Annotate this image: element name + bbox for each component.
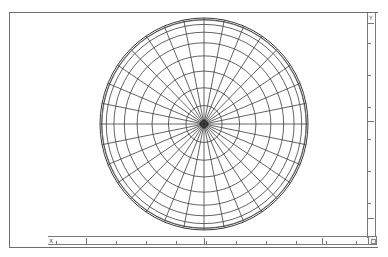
ruler-major-tick bbox=[322, 238, 323, 244]
ruler-major-tick bbox=[368, 218, 374, 219]
ruler-tick bbox=[116, 241, 117, 244]
horizontal-ruler[interactable]: X bbox=[48, 236, 368, 245]
longitude-spoke bbox=[204, 49, 278, 124]
ruler-tick bbox=[368, 171, 371, 172]
longitude-spoke bbox=[130, 49, 204, 124]
vertical-ruler[interactable]: Y bbox=[367, 13, 376, 238]
ruler-tick bbox=[176, 241, 177, 244]
view-toggle-button[interactable] bbox=[368, 236, 377, 245]
ruler-tick bbox=[368, 107, 371, 108]
ruler-tick bbox=[368, 43, 371, 44]
ruler-tick bbox=[236, 241, 237, 244]
ruler-tick bbox=[368, 203, 371, 204]
longitude-spoke bbox=[130, 124, 204, 199]
x-axis-label: X bbox=[49, 238, 53, 244]
longitude-spoke bbox=[204, 124, 278, 199]
ruler-major-tick bbox=[368, 121, 374, 122]
ruler-tick bbox=[296, 241, 297, 244]
view-toggle-icon bbox=[371, 239, 376, 244]
y-axis-label: Y bbox=[369, 15, 373, 21]
ruler-major-tick bbox=[86, 238, 87, 244]
pole-point bbox=[203, 123, 205, 125]
ruler-major-tick bbox=[368, 23, 374, 24]
ruler-tick bbox=[206, 241, 207, 244]
ruler-tick bbox=[368, 139, 371, 140]
ruler-major-tick bbox=[204, 238, 205, 244]
ruler-tick bbox=[326, 241, 327, 244]
ruler-tick bbox=[266, 241, 267, 244]
ruler-tick bbox=[356, 241, 357, 244]
ruler-tick bbox=[368, 75, 371, 76]
3d-viewport[interactable] bbox=[0, 0, 388, 257]
ruler-tick bbox=[146, 241, 147, 244]
ruler-tick bbox=[56, 241, 57, 244]
